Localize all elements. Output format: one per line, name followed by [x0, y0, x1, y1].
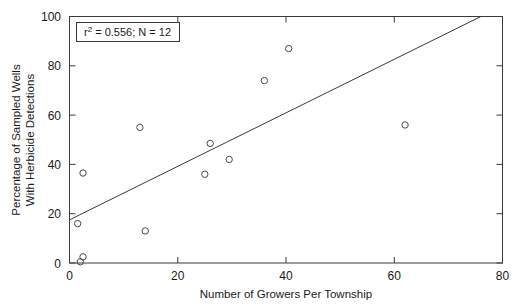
regression-line [70, 17, 481, 220]
x-tick-labels: 0 20 40 60 80 [66, 269, 509, 283]
y-tick-label-0: 0 [54, 257, 61, 271]
x-axis-ticks [70, 17, 503, 264]
data-point [80, 170, 86, 176]
plot-frame [70, 17, 503, 264]
data-point [402, 122, 408, 128]
data-point [80, 254, 86, 260]
data-point [137, 124, 143, 130]
data-point [142, 228, 148, 234]
data-points-group [74, 45, 408, 265]
y-tick-label-80: 80 [48, 59, 62, 73]
y-tick-labels: 0 20 40 60 80 100 [41, 10, 61, 271]
x-axis-title: Number of Growers Per Township [200, 288, 372, 300]
y-tick-label-40: 40 [48, 158, 62, 172]
data-point [207, 140, 213, 146]
x-tick-label-0: 0 [66, 269, 73, 283]
y-tick-label-100: 100 [41, 10, 61, 24]
data-point [202, 171, 208, 177]
x-tick-label-60: 60 [388, 269, 402, 283]
y-tick-label-60: 60 [48, 109, 62, 123]
data-point [286, 45, 292, 51]
annotation-label: r2 = 0.556; N = 12 [84, 25, 171, 38]
y-axis-title-line1: Percentage of Sampled Wells [10, 64, 22, 216]
x-tick-label-20: 20 [171, 269, 185, 283]
y-axis-title-line2: With Herbicide Detections [24, 74, 36, 207]
x-tick-label-80: 80 [496, 269, 510, 283]
scatter-plot-figure: 0 20 40 60 80 0 20 40 60 80 100 Number o… [0, 0, 519, 308]
data-point [226, 156, 232, 162]
r-value-text: = 0.556; N = 12 [92, 26, 171, 38]
x-tick-label-40: 40 [279, 269, 293, 283]
data-point [261, 77, 267, 83]
data-point [74, 220, 80, 226]
y-axis-ticks [70, 17, 503, 264]
y-tick-label-20: 20 [48, 207, 62, 221]
plot-canvas: 0 20 40 60 80 0 20 40 60 80 100 Number o… [0, 0, 519, 308]
statistics-annotation: r2 = 0.556; N = 12 [77, 23, 180, 42]
